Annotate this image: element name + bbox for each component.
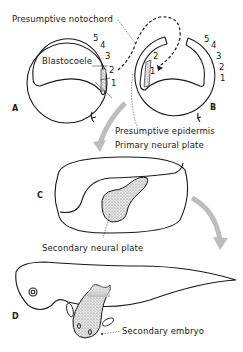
label-primary-neural-plate: Primary neural plate (115, 141, 204, 150)
label-secondary-neural-plate: Secondary neural plate (42, 244, 143, 253)
panel-label-b: B (210, 104, 216, 112)
panel-label-c: C (37, 192, 43, 200)
zone-number-a-1: 1 (111, 79, 116, 88)
label-presumptive-notochord: Presumptive notochord (12, 15, 113, 24)
panel-label-d: D (12, 313, 19, 321)
zone-number-a-3: 3 (105, 52, 110, 61)
zone-number-b-2: 2 (219, 63, 224, 72)
label-presumptive-epidermis: Presumptive epidermis (115, 127, 215, 136)
panel-label-a: A (12, 105, 18, 113)
zone-number-a-4: 4 (100, 41, 105, 50)
zone-number-a-5: 5 (93, 34, 98, 43)
progression-arrow-1 (100, 103, 125, 143)
secondary-embryo-fade (88, 283, 110, 297)
embryo-a (27, 39, 107, 123)
zone-number-a-2: 2 (109, 66, 114, 75)
secondary-neural-plate-shape (102, 177, 148, 222)
presumptive-notochord-region-a (101, 69, 106, 91)
diagram-figure: Presumptive notochord Blastocoele Presum… (0, 0, 243, 352)
graft-number-b-2: 2 (153, 52, 158, 61)
diagram-drawing (0, 0, 243, 352)
graft-arrowhead-icon (157, 65, 163, 71)
zone-number-b-1: 1 (220, 74, 225, 83)
graft-number-b-1: 1 (150, 67, 155, 76)
zone-number-b-5: 5 (204, 35, 209, 44)
label-secondary-embryo: Secondary embryo (122, 327, 204, 336)
label-blastocoele: Blastocoele (42, 57, 92, 66)
zone-number-b-4: 4 (211, 41, 216, 50)
zone-number-b-3: 3 (216, 52, 221, 61)
progression-arrow-2 (192, 198, 220, 240)
embryo-d (16, 262, 236, 310)
